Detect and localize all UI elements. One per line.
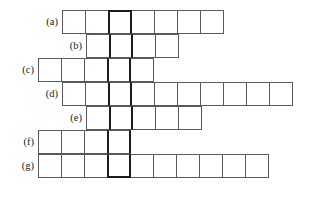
puzzle-cell[interactable] bbox=[153, 154, 177, 178]
puzzle-cell[interactable] bbox=[269, 82, 293, 106]
puzzle-cell[interactable] bbox=[84, 58, 108, 82]
puzzle-cell[interactable] bbox=[86, 106, 110, 130]
puzzle-cell[interactable] bbox=[177, 10, 201, 34]
puzzle-cell[interactable] bbox=[84, 154, 108, 178]
puzzle-cell[interactable] bbox=[86, 34, 110, 58]
puzzle-cell-highlighted[interactable] bbox=[109, 106, 133, 130]
row-label-c: (c) bbox=[12, 58, 34, 82]
puzzle-cell[interactable] bbox=[130, 58, 154, 82]
puzzle-row bbox=[86, 106, 202, 130]
puzzle-cell-highlighted[interactable] bbox=[107, 154, 131, 178]
puzzle-cell[interactable] bbox=[61, 130, 85, 154]
puzzle-cell[interactable] bbox=[245, 154, 269, 178]
puzzle-cell-highlighted[interactable] bbox=[108, 82, 132, 106]
row-label-a: (a) bbox=[36, 10, 58, 34]
puzzle-cell[interactable] bbox=[200, 10, 224, 34]
puzzle-row bbox=[62, 10, 224, 34]
puzzle-cell-highlighted[interactable] bbox=[107, 130, 131, 154]
puzzle-cell[interactable] bbox=[85, 10, 109, 34]
puzzle-cell[interactable] bbox=[246, 82, 270, 106]
puzzle-row bbox=[38, 154, 269, 178]
row-label-e: (e) bbox=[60, 106, 82, 130]
row-label-f: (f) bbox=[12, 130, 34, 154]
row-label-g: (g) bbox=[12, 154, 34, 178]
puzzle-cell[interactable] bbox=[155, 34, 179, 58]
puzzle-cell[interactable] bbox=[38, 58, 62, 82]
puzzle-cell[interactable] bbox=[130, 154, 154, 178]
puzzle-cell[interactable] bbox=[177, 82, 201, 106]
puzzle-cell[interactable] bbox=[176, 154, 200, 178]
puzzle-cell[interactable] bbox=[199, 154, 223, 178]
row-label-b: (b) bbox=[60, 34, 82, 58]
puzzle-cell[interactable] bbox=[84, 130, 108, 154]
puzzle-cell[interactable] bbox=[132, 106, 156, 130]
puzzle-cell-highlighted[interactable] bbox=[108, 10, 132, 34]
puzzle-row bbox=[86, 34, 179, 58]
puzzle-cell[interactable] bbox=[223, 82, 247, 106]
puzzle-cell[interactable] bbox=[38, 154, 62, 178]
puzzle-cell[interactable] bbox=[61, 58, 85, 82]
puzzle-cell[interactable] bbox=[154, 82, 178, 106]
puzzle-cell[interactable] bbox=[62, 82, 86, 106]
puzzle-row bbox=[38, 130, 131, 154]
puzzle-cell[interactable] bbox=[200, 82, 224, 106]
puzzle-cell[interactable] bbox=[132, 34, 156, 58]
puzzle-cell-highlighted[interactable] bbox=[107, 58, 131, 82]
puzzle-row bbox=[62, 82, 293, 106]
puzzle-cell[interactable] bbox=[222, 154, 246, 178]
row-label-d: (d) bbox=[36, 82, 58, 106]
puzzle-cell-highlighted[interactable] bbox=[109, 34, 133, 58]
crossword-puzzle-grid: (a)(b)(c)(d)(e)(f)(g) bbox=[0, 0, 327, 200]
puzzle-cell[interactable] bbox=[155, 106, 179, 130]
puzzle-cell[interactable] bbox=[62, 10, 86, 34]
puzzle-cell[interactable] bbox=[178, 106, 202, 130]
puzzle-cell[interactable] bbox=[38, 130, 62, 154]
puzzle-cell[interactable] bbox=[154, 10, 178, 34]
puzzle-cell[interactable] bbox=[61, 154, 85, 178]
puzzle-cell[interactable] bbox=[131, 82, 155, 106]
puzzle-cell[interactable] bbox=[85, 82, 109, 106]
puzzle-cell[interactable] bbox=[131, 10, 155, 34]
puzzle-row bbox=[38, 58, 154, 82]
